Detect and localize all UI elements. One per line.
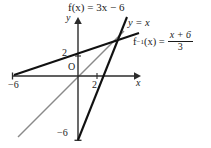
origin-label: O: [68, 62, 75, 72]
function-equation-text: f(x) = 3x − 6: [68, 1, 124, 13]
function-line: [78, 17, 127, 140]
inverse-fraction: x + 6 3: [168, 30, 193, 52]
inverse-argument-equals: (x) =: [144, 37, 165, 48]
y-tick-label-2: 2: [62, 48, 67, 58]
y-tick-label-neg6: −6: [57, 128, 68, 138]
coordinate-plot: [0, 0, 211, 148]
y-axis-label: y: [66, 13, 70, 23]
identity-line-y-equals-x: [18, 31, 124, 137]
x-axis-label: x: [136, 78, 140, 88]
inverse-equation-label: f−1(x) = x + 6 3: [133, 31, 193, 53]
function-equation-label: f(x) = 3x − 6: [68, 2, 124, 13]
identity-equation-label: y = x: [128, 18, 150, 29]
identity-equation-text: y = x: [128, 17, 150, 28]
x-tick-label-neg6: −6: [8, 80, 19, 90]
inverse-fraction-denominator: 3: [178, 42, 183, 53]
inverse-function-line: [14, 33, 139, 75]
y-axis-arrow-icon: [74, 17, 82, 24]
inverse-exponent: −1: [137, 39, 144, 46]
function-inverse-graph-figure: f(x) = 3x − 6 y = x f−1(x) = x + 6 3 y x…: [0, 0, 211, 148]
x-tick-label-2: 2: [92, 80, 97, 90]
inverse-fraction-numerator: x + 6: [168, 30, 193, 41]
